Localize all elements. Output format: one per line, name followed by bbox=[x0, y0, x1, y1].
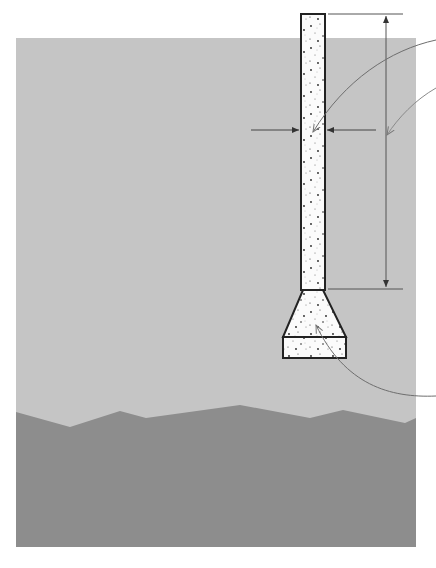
diagram-canvas bbox=[0, 0, 436, 568]
pier-footing-diagram bbox=[0, 0, 436, 568]
footing-base bbox=[283, 337, 346, 358]
pier-column bbox=[301, 14, 325, 290]
soil-lower-region bbox=[16, 405, 416, 547]
